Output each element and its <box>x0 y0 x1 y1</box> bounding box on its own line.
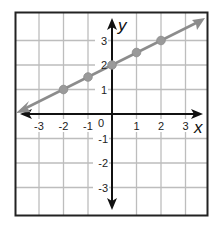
point-neg2-1 <box>59 85 68 94</box>
x-tick-label: -1 <box>83 120 93 132</box>
y-tick-label: 1 <box>101 84 107 96</box>
y-tick-label: -2 <box>98 157 108 169</box>
y-tick-label: -3 <box>98 182 108 194</box>
y-tick-label: 3 <box>101 35 107 47</box>
point-0-2 <box>108 61 117 70</box>
point-1-2.5 <box>132 48 141 57</box>
x-tick-label: -3 <box>34 120 44 132</box>
x-tick-label: 2 <box>158 120 164 132</box>
y-axis-label: y <box>117 16 128 35</box>
x-tick-label: 1 <box>133 120 139 132</box>
axes <box>26 24 196 205</box>
x-tick-label: -2 <box>59 120 69 132</box>
point-neg1-1.5 <box>84 73 93 82</box>
y-tick-label: 2 <box>101 59 107 71</box>
coordinate-plane: -3 -2 -1 1 2 3 0 3 2 1 -1 -2 -3 y x <box>0 0 219 227</box>
y-tick-label: -1 <box>98 133 108 145</box>
point-2-3 <box>157 36 166 45</box>
x-tick-label: 3 <box>182 120 188 132</box>
origin-label: 0 <box>98 117 104 129</box>
x-axis-label: x <box>193 118 203 137</box>
